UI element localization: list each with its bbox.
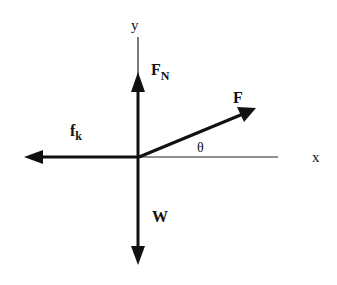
applied-force-label: F: [233, 89, 243, 106]
free-body-diagram: y x θ FN F fk W: [0, 0, 337, 285]
weight-arrow: [131, 157, 145, 265]
friction-arrow: [24, 150, 138, 164]
friction-label: fk: [70, 122, 82, 143]
normal-force-arrow: [131, 72, 145, 157]
y-axis-label: y: [131, 17, 139, 33]
weight-label: W: [152, 208, 168, 225]
normal-force-label: FN: [151, 61, 170, 83]
x-axis-label: x: [312, 149, 320, 165]
angle-label: θ: [197, 140, 204, 155]
